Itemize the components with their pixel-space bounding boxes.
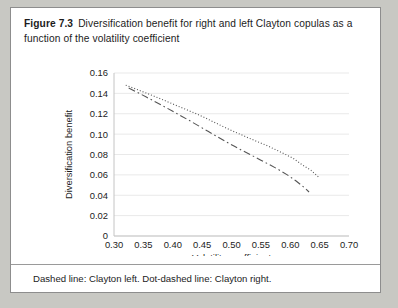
y-tick-label: 0.08 [90, 149, 108, 160]
figure-title-text: Diversification benefit for right and le… [24, 18, 352, 44]
y-tick-label: 0.16 [90, 67, 108, 78]
y-tick-label: 0.12 [90, 108, 108, 119]
x-tick-label: 0.40 [164, 239, 182, 250]
x-tick-label: 0.50 [222, 239, 240, 250]
y-tick-label: 0.10 [90, 129, 108, 140]
chart-plot-area: 00.020.040.060.080.100.120.140.16 0.300.… [11, 52, 380, 256]
y-tick-label: 0.02 [90, 210, 108, 221]
x-tick-label: 0.55 [252, 239, 270, 250]
figure-title: Figure 7.3Diversification benefit for ri… [24, 16, 368, 46]
y-axis-title: Diversification benefit [63, 110, 74, 199]
y-tick-label: 0.04 [90, 190, 108, 201]
diversification-benefit-line-chart: 00.020.040.060.080.100.120.140.16 0.300.… [11, 52, 380, 256]
y-axis-tick-labels: 00.020.040.060.080.100.120.140.16 [90, 67, 108, 241]
data-series-group [126, 85, 320, 192]
x-tick-label: 0.35 [134, 239, 152, 250]
figure-card: Figure 7.3Diversification benefit for ri… [10, 7, 381, 293]
y-tick-label: 0.06 [90, 169, 108, 180]
series-line-clayton-left [129, 88, 309, 192]
x-tick-label: 0.30 [105, 239, 123, 250]
x-axis-title: Volatility coefficient [192, 252, 271, 256]
x-axis-tick-labels: 0.300.350.400.450.500.550.600.650.70 [105, 239, 358, 250]
x-tick-label: 0.60 [281, 239, 299, 250]
x-tick-label: 0.45 [193, 239, 211, 250]
figure-number: Figure 7.3 [24, 18, 73, 29]
caption-divider [11, 264, 380, 265]
figure-caption: Dashed line: Clayton left. Dot-dashed li… [33, 273, 363, 284]
x-tick-label: 0.65 [311, 239, 329, 250]
y-tick-label: 0.14 [90, 88, 108, 99]
series-line-clayton-right [126, 85, 320, 178]
grid-lines [114, 73, 349, 236]
x-tick-label: 0.70 [340, 239, 358, 250]
